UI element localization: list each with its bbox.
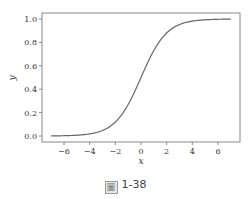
x-tick-label: 6: [215, 147, 220, 156]
x-tick-label: 4: [190, 147, 195, 156]
y-tick-label: 0.2: [24, 109, 37, 118]
sigmoid-curve: [51, 19, 231, 136]
figure-caption: 圖1-38: [0, 178, 251, 194]
x-axis-ticks: −6−4−20246: [58, 142, 220, 156]
y-tick-label: 0.0: [24, 132, 37, 141]
y-tick-label: 0.8: [24, 38, 37, 47]
x-tick-label: 2: [164, 147, 169, 156]
y-tick-label: 1.0: [24, 15, 37, 24]
x-tick-label: −2: [109, 147, 121, 156]
y-tick-label: 0.6: [24, 62, 37, 71]
y-tick-label: 0.4: [24, 85, 37, 94]
y-axis-label: y: [7, 75, 17, 82]
x-tick-label: 0: [138, 147, 143, 156]
x-axis-label: x: [138, 156, 143, 166]
y-axis-ticks: 0.00.20.40.60.81.0: [24, 15, 42, 141]
x-tick-label: −6: [58, 147, 70, 156]
figure-number: 1-38: [122, 178, 147, 191]
figure-glyph: 圖: [105, 181, 118, 194]
sigmoid-chart: 0.00.20.40.60.81.0 −6−4−20246 x y: [0, 0, 251, 170]
x-tick-label: −4: [84, 147, 96, 156]
